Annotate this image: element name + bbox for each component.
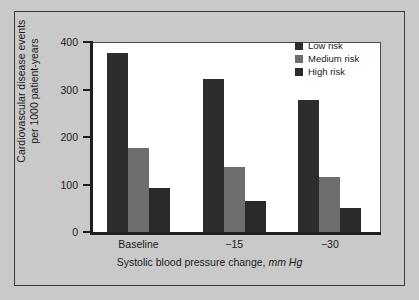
chart-figure: 0100200300400 Cardiovascular disease eve… (0, 0, 419, 300)
bar-minus30-high-risk (340, 208, 361, 233)
x-tick-label: −30 (290, 238, 370, 250)
x-tick-label: −15 (194, 238, 274, 250)
x-axis-title-text: Systolic blood pressure change, (117, 256, 266, 268)
bar-minus15-low-risk (203, 79, 224, 233)
y-tick-mark (83, 41, 91, 43)
bar-Baseline-medium-risk (128, 148, 149, 234)
legend-item: Medium risk (295, 54, 359, 64)
y-axis-title-line-2: per 1000 patient-years (28, 1, 41, 181)
legend-label: Medium risk (308, 54, 359, 64)
y-tick-label: 100 (60, 180, 78, 191)
y-tick-label: 300 (60, 85, 78, 96)
bar-minus15-high-risk (245, 201, 266, 233)
x-axis-title-unit: mm Hg (268, 256, 302, 268)
y-tick-mark (83, 89, 91, 91)
bar-minus30-low-risk (298, 100, 319, 233)
bar-Baseline-high-risk (149, 188, 170, 233)
legend-item: Low risk (295, 41, 359, 51)
y-tick-mark (83, 136, 91, 138)
legend-label: Low risk (308, 41, 343, 51)
bar-minus15-medium-risk (224, 167, 245, 234)
bar-minus30-medium-risk (319, 177, 340, 233)
y-tick-mark (83, 231, 91, 233)
y-tick-label: 0 (72, 227, 78, 238)
x-tick-label: Baseline (99, 238, 179, 250)
y-axis-title-line-1: Cardiovascular disease events (15, 1, 28, 181)
y-tick-mark (83, 184, 91, 186)
x-axis-title: Systolic blood pressure change, mm Hg (0, 256, 419, 268)
legend-swatch-icon (295, 42, 303, 50)
legend-item: High risk (295, 67, 359, 77)
y-axis-title: Cardiovascular disease events per 1000 p… (15, 1, 41, 181)
legend-label: High risk (308, 67, 345, 77)
chart-legend: Low riskMedium riskHigh risk (295, 41, 359, 80)
legend-swatch-icon (295, 55, 303, 63)
legend-swatch-icon (295, 68, 303, 76)
bar-Baseline-low-risk (107, 53, 128, 234)
y-tick-label: 400 (60, 37, 78, 48)
y-tick-label: 200 (60, 132, 78, 143)
x-axis-line (90, 232, 381, 235)
